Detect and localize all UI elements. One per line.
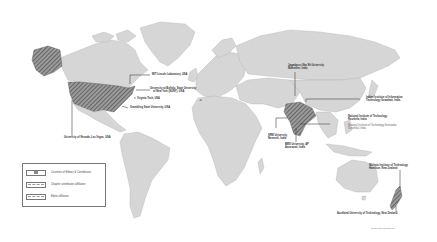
label-aut: Auckland University of Technology, New Z… <box>337 212 397 215</box>
label-jagadguru-line2: Mahaneer, India <box>288 67 324 70</box>
russia <box>236 30 400 80</box>
dashed-line-icon <box>26 194 46 200</box>
label-nit-line2: Rourkela, India <box>348 118 387 121</box>
canada <box>60 40 148 88</box>
legend-item-chapter-contributors: Chapter contributors affiliation <box>26 181 85 188</box>
greenland <box>140 22 195 66</box>
legend-item-countries: Countries of Editors & Contributors <box>26 169 91 176</box>
legend-label: Editor affiliation <box>51 195 69 198</box>
legend: Countries of Editors & Contributors Chap… <box>22 163 106 207</box>
label-srm-line2: Nemmeli, India <box>268 137 288 140</box>
alaska <box>32 46 62 76</box>
label-grambling: Grambling State University, USA <box>130 106 170 109</box>
legend-label: Countries of Editors & Contributors <box>51 171 91 174</box>
label-nit-karnataka: National Institute of Technology Karnata… <box>348 124 397 130</box>
label-nevada: University of Nevada, Las Vegas, USA <box>64 136 111 139</box>
label-iiit-line2: Technology Guwahati, India <box>366 99 403 102</box>
label-waikato: Waikato Institute of Technology Hamilton… <box>369 164 408 170</box>
legend-item-editor: Editor affiliation <box>26 193 69 200</box>
label-bms: BMS University, AP Amaravati, India <box>285 143 309 149</box>
label-buffalo: University at Buffalo, State University … <box>150 87 196 93</box>
label-waikato-line2: Hamilton, New Zealand <box>369 167 408 170</box>
label-jagadguru: Jagadguru Sha Sh University Mahaneer, In… <box>288 64 324 70</box>
label-iiit-guwahati: Indian Institute of Information Technolo… <box>366 96 403 102</box>
label-virginia-tech: Virginia Tech, USA <box>137 97 160 100</box>
label-nitk-line2: Surathkal, India <box>348 127 397 130</box>
south-america <box>120 132 170 218</box>
dashed-line-icon <box>26 182 46 188</box>
label-srm: SRM University, Nemmeli, India <box>268 134 288 140</box>
label-nit-rourkela: National Institute of Technology Rourkel… <box>348 115 387 121</box>
label-buffalo-line2: of New York (SUNY), USA <box>150 90 196 93</box>
label-bms-line2: Amaravati, India <box>285 146 309 149</box>
hatched-box-icon <box>26 170 46 176</box>
legend-label: Chapter contributors affiliation <box>51 183 85 186</box>
map-credit: Created with mapchart.net <box>371 227 394 229</box>
india <box>284 102 316 136</box>
africa <box>192 96 262 186</box>
label-mit-lincoln: MIT Lincoln Laboratory, USA <box>152 73 187 76</box>
